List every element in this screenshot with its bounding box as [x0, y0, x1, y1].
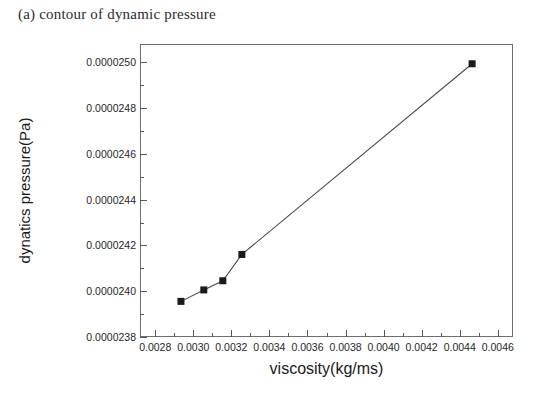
- x-tick-minor: [365, 333, 366, 337]
- plot-area: [140, 44, 513, 337]
- y-tick-label: 0.0000242: [86, 239, 136, 251]
- x-tick-major: [307, 330, 308, 337]
- y-tick-minor: [140, 223, 144, 224]
- y-tick-major: [140, 154, 147, 155]
- x-tick-label: 0.0044: [444, 341, 476, 353]
- x-tick-minor: [403, 333, 404, 337]
- y-axis-title: dynatics pressure(Pa): [14, 44, 36, 337]
- y-axis-title-text: dynatics pressure(Pa): [17, 118, 34, 264]
- x-tick-label: 0.0046: [482, 341, 514, 353]
- y-tick-major: [140, 291, 147, 292]
- y-tick-label: 0.0000240: [86, 285, 136, 297]
- x-tick-label: 0.0030: [177, 341, 209, 353]
- x-tick-label: 0.0028: [139, 341, 171, 353]
- figure-caption: (a) contour of dynamic pressure: [18, 6, 216, 23]
- y-tick-major: [140, 245, 147, 246]
- x-tick-minor: [174, 333, 175, 337]
- x-tick-major: [346, 330, 347, 337]
- x-tick-minor: [250, 333, 251, 337]
- data-point: [469, 60, 476, 67]
- y-tick-label: 0.0000238: [86, 331, 136, 343]
- y-tick-minor: [140, 177, 144, 178]
- data-point: [200, 286, 207, 293]
- x-tick-major: [269, 330, 270, 337]
- x-tick-minor: [479, 333, 480, 337]
- x-tick-major: [231, 330, 232, 337]
- x-tick-minor: [212, 333, 213, 337]
- data-line: [181, 64, 472, 302]
- plot-canvas: [141, 45, 514, 338]
- x-tick-label: 0.0040: [368, 341, 400, 353]
- x-tick-major: [193, 330, 194, 337]
- x-tick-label: 0.0036: [291, 341, 323, 353]
- x-tick-minor: [327, 333, 328, 337]
- y-tick-label: 0.0000246: [86, 148, 136, 160]
- x-tick-label: 0.0038: [329, 341, 361, 353]
- y-tick-minor: [140, 314, 144, 315]
- x-tick-minor: [441, 333, 442, 337]
- y-tick-minor: [140, 268, 144, 269]
- x-tick-minor: [288, 333, 289, 337]
- data-point: [177, 298, 184, 305]
- x-tick-label: 0.0032: [215, 341, 247, 353]
- x-tick-major: [498, 330, 499, 337]
- data-point: [238, 251, 245, 258]
- x-axis-title: viscosity(kg/ms): [140, 360, 513, 378]
- y-tick-label: 0.0000248: [86, 102, 136, 114]
- x-tick-major: [155, 330, 156, 337]
- y-tick-major: [140, 108, 147, 109]
- x-tick-major: [422, 330, 423, 337]
- y-tick-minor: [140, 131, 144, 132]
- y-tick-major: [140, 200, 147, 201]
- data-markers: [177, 60, 475, 305]
- y-tick-label: 0.0000250: [86, 56, 136, 68]
- y-tick-major: [140, 62, 147, 63]
- x-tick-major: [384, 330, 385, 337]
- x-tick-label: 0.0034: [253, 341, 285, 353]
- y-tick-major: [140, 337, 147, 338]
- data-point: [219, 277, 226, 284]
- x-tick-major: [460, 330, 461, 337]
- y-tick-label: 0.0000244: [86, 194, 136, 206]
- figure-panel: (a) contour of dynamic pressure 0.00280.…: [0, 0, 540, 399]
- x-tick-label: 0.0042: [406, 341, 438, 353]
- y-tick-minor: [140, 85, 144, 86]
